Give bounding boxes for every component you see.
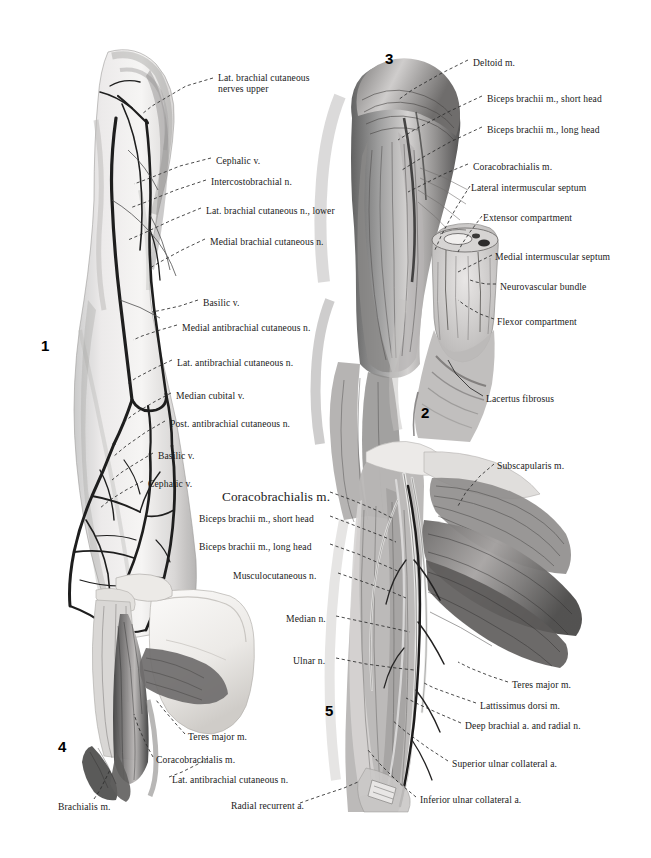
figure-5-artwork: [330, 441, 582, 812]
label-biceps-short-head-fig5: Biceps brachii m., short head: [199, 513, 314, 524]
label-teres-major-m-fig5: Teres major m.: [512, 679, 571, 690]
label-deep-brachial-a-and-radial-n: Deep brachial a. and radial n.: [465, 720, 581, 731]
anatomical-plate: Lat. brachial cutaneous nerves upperCeph…: [0, 0, 651, 858]
figure-number-4: 4: [58, 738, 66, 755]
label-flexor-compartment: Flexor compartment: [497, 316, 577, 327]
label-lat-brachial-cut-nerves-upper: Lat. brachial cutaneous nerves upper: [218, 72, 310, 95]
figure-number-1: 1: [41, 337, 49, 354]
label-medial-antibrachial-cut-n: Medial antibrachial cutaneous n.: [182, 322, 310, 333]
label-teres-major-m-fig4: Teres major m.: [188, 731, 247, 742]
label-inferior-ulnar-collateral-a: Inferior ulnar collateral a.: [420, 794, 521, 805]
label-coracobrachialis-m-fig4: Coracobrachialis m.: [156, 754, 235, 765]
label-subscapularis-m: Subscapularis m.: [497, 460, 564, 471]
label-deltoid-m: Deltoid m.: [473, 57, 515, 68]
label-biceps-long-head-fig5: Biceps brachii m., long head: [199, 541, 312, 552]
label-ulnar-n: Ulnar n.: [293, 655, 325, 666]
label-extensor-compartment: Extensor compartment: [483, 212, 572, 223]
label-cephalic-v-upper: Cephalic v.: [216, 155, 260, 166]
label-superior-ulnar-collateral-a: Superior ulnar collateral a.: [452, 758, 557, 769]
label-lacertus-fibrosus: Lacertus fibrosus: [486, 393, 554, 404]
label-brachialis-m: Brachialis m.: [58, 801, 110, 812]
figure-number-3: 3: [385, 50, 393, 67]
label-basilic-v-lower: Basilic v.: [158, 450, 195, 461]
label-coracobrachialis-m-fig3: Coracobrachialis m.: [473, 161, 552, 172]
label-lattissimus-dorsi-m: Lattissimus dorsi m.: [480, 700, 560, 711]
label-coracobrachialis-m-fig5: Coracobrachialis m.: [222, 489, 330, 505]
figure-4-artwork: [82, 574, 254, 802]
figure-number-2: 2: [421, 404, 429, 421]
label-cephalic-v-lower: Cephalic v.: [148, 478, 192, 489]
label-lateral-intermuscular-septum: Lateral intermuscular septum: [471, 182, 586, 193]
label-lat-antibrachial-cut-n-fig4: Lat. antibrachial cutaneous n.: [172, 774, 288, 785]
label-lat-brachial-cut-n-lower: Lat. brachial cutaneous n., lower: [206, 205, 335, 216]
label-post-antibrachial-cut-n: Post. antibrachial cutaneous n.: [170, 418, 290, 429]
label-lat-antibrachial-cut-n-fig1: Lat. antibrachial cutaneous n.: [177, 357, 293, 368]
label-medial-brachial-cut-n: Medial brachial cutaneous n.: [210, 236, 324, 247]
label-basilic-v-upper: Basilic v.: [203, 297, 240, 308]
label-neurovascular-bundle: Neurovascular bundle: [500, 281, 586, 292]
label-radial-recurrent-a: Radial recurrent a.: [231, 800, 304, 811]
figure-number-5: 5: [325, 702, 333, 719]
label-biceps-long-head-fig3: Biceps brachii m., long head: [487, 124, 600, 135]
figure-1-artwork: [70, 50, 197, 640]
label-biceps-short-head-fig3: Biceps brachii m., short head: [487, 93, 602, 104]
label-intercostobrachial-n: Intercostobrachial n.: [211, 176, 292, 187]
label-median-cubital-v: Median cubital v.: [176, 390, 244, 401]
label-medial-intermuscular-septum: Medial intermuscular septum: [495, 251, 610, 262]
label-median-n: Median n.: [286, 613, 326, 624]
label-musculocutaneous-n: Musculocutaneous n.: [233, 570, 316, 581]
